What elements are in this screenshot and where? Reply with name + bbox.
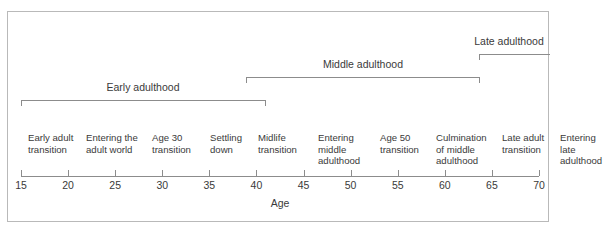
stage-labels: Early adult transition Entering the adul… [28,132,548,180]
axis-tick-label-30: 30 [156,179,168,191]
axis-tick-label-70: 70 [533,179,545,191]
axis-tick-25 [115,170,116,176]
stage-entering-the-adult-world: Entering the adult world [86,132,146,155]
axis-tick-65 [492,170,493,176]
axis-title-age: Age [271,197,290,209]
axis-tick-label-15: 15 [15,179,27,191]
bracket-label-early-adulthood: Early adulthood [93,81,193,93]
axis-tick-label-45: 45 [298,179,310,191]
axis-tick-20 [68,170,69,176]
stage-age-30-transition: Age 30 transition [152,132,204,155]
stage-late-adult-transition: Late adult transition [502,132,556,155]
stage-settling-down: Settling down [210,132,256,155]
axis-tick-60 [445,170,446,176]
axis-tick-label-60: 60 [439,179,451,191]
axis-tick-55 [398,170,399,176]
axis-tick-label-65: 65 [486,179,498,191]
axis-tick-label-35: 35 [204,179,216,191]
axis-tick-45 [304,170,305,176]
axis-tick-50 [351,170,352,176]
axis-tick-label-20: 20 [62,179,74,191]
axis-tick-30 [162,170,163,176]
stage-early-adult-transition: Early adult transition [28,132,82,155]
stage-entering-middle-adulthood: Entering middle adulthood [318,132,374,167]
axis-tick-15 [21,170,22,176]
bracket-middle-adulthood [246,77,480,83]
bracket-label-middle-adulthood: Middle adulthood [313,58,413,70]
axis-tick-label-50: 50 [345,179,357,191]
axis-tick-label-40: 40 [251,179,263,191]
stage-entering-late-adulthood: Entering late adulthood [560,132,607,167]
axis-tick-40 [256,170,257,176]
axis-tick-label-55: 55 [392,179,404,191]
axis-tick-label-25: 25 [109,179,121,191]
stage-midlife-transition: Midlife transition [258,132,312,155]
bracket-late-adulthood [479,54,550,60]
stage-age-50-transition: Age 50 transition [380,132,432,155]
axis-tick-35 [209,170,210,176]
stage-culmination-of-middle-adulthood: Culmination of middle adulthood [436,132,498,167]
bracket-early-adulthood [21,100,266,106]
bracket-label-late-adulthood: Late adulthood [459,35,559,47]
age-axis-line [21,176,539,177]
axis-tick-70 [539,170,540,176]
diagram-frame: Late adulthood Middle adulthood Early ad… [7,11,549,222]
